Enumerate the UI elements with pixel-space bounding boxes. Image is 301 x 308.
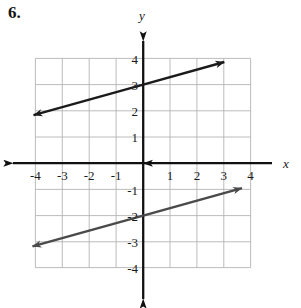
y-tick-label-neg1: -1 bbox=[127, 183, 138, 198]
y-axis-name: y bbox=[137, 8, 145, 23]
y-tick-label-neg3: -3 bbox=[127, 235, 138, 250]
y-tick-label-3: 3 bbox=[132, 78, 139, 93]
y-tick-label-1: 1 bbox=[132, 130, 139, 145]
x-tick-label-2: 2 bbox=[194, 168, 201, 183]
y-tick-label-4: 4 bbox=[132, 52, 139, 67]
y-tick-label-neg2: -2 bbox=[127, 209, 138, 224]
x-tick-label-4: 4 bbox=[247, 168, 254, 183]
y-tick-label-2: 2 bbox=[132, 104, 139, 119]
coordinate-plane-graph: x y -4 -3 -2 -1 1 2 3 4 4 3 2 1 -1 -2 -3… bbox=[0, 0, 301, 308]
worksheet-figure: 6. bbox=[0, 0, 301, 308]
x-tick-label-neg4: -4 bbox=[30, 168, 41, 183]
x-axis-name: x bbox=[282, 156, 289, 171]
y-tick-label-neg4: -4 bbox=[127, 261, 138, 276]
x-tick-label-3: 3 bbox=[221, 168, 228, 183]
x-tick-label-1: 1 bbox=[167, 168, 174, 183]
x-tick-label-neg2: -2 bbox=[84, 168, 95, 183]
x-tick-label-neg3: -3 bbox=[57, 168, 68, 183]
x-tick-label-neg1: -1 bbox=[111, 168, 122, 183]
